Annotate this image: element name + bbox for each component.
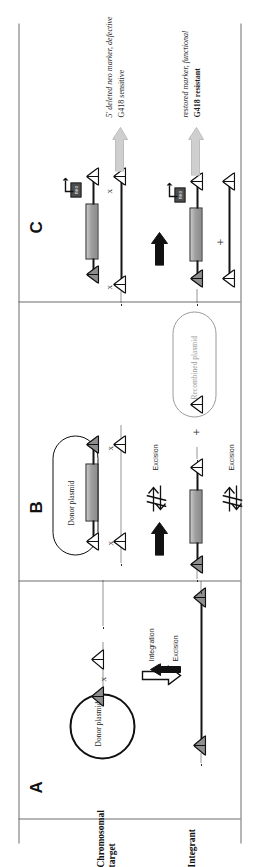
panelB-product-flank-right [196,447,197,461]
panelC-top-marker-cassette [85,203,98,259]
panelB-chromosome-att-site-left-top [113,532,126,550]
panel-letter-b: B [26,501,46,513]
frame-bottom-rule [240,23,241,843]
panelC-bottom-transcription-arrow [188,125,204,175]
panelC-top-chromosome-line [120,175,122,287]
frame-top-rule [18,23,19,843]
panelC-plus-sign: + [214,238,226,245]
panelC-crossover-right: x [104,189,113,194]
panel-divider-a-b [18,580,240,581]
panelA-plasmid-att-site-triangle [91,686,104,706]
panelB-donor-marker-cassette [85,463,98,521]
panelA-integrant-att-site-right [193,587,206,607]
row-label-integrant-line1: Integrant [186,828,196,867]
panelC-bottom-marker-cassette [189,207,202,261]
panelB-plus-sign: + [190,428,202,435]
panelC-crossover-left: x [104,285,113,290]
panelC-bottom-flank-left [196,289,197,305]
panelC-top-annotation-line1: 5' deleted neo marker, defective [104,16,114,117]
panelC-bottom-annotation-line2: G418 resistant [192,68,202,117]
panelA-chromosome-att-site-triangle [91,649,104,669]
panelC-second-product-att-left [222,269,235,287]
panelB-product-marker-cassette [189,489,202,543]
panelA-integrant-flank-left [200,753,201,765]
panelA-integrant-att-site-left [193,735,206,755]
panelB-excision-label-top: Excision [150,444,160,470]
frame-vertical-rule [18,818,240,819]
panelC-second-product-att-right [222,172,235,190]
panelB-transition-arrow [150,521,170,555]
panelA-integrant-flank-right [200,581,201,593]
panelA-chromosome-line-right [102,580,103,628]
panelB-recombined-plasmid-label: Recombined plasmid [189,335,198,399]
panelA-donor-plasmid-label: Donor plasmid [93,702,102,746]
panelA-integration-label: Integration [146,628,156,661]
panelC-top-chromosome-flank [120,291,121,305]
panelC-bottom-annotation-line1: restored marker, functional [180,30,190,117]
panelC-bottom-att-site-left [190,269,203,287]
panelC-top-transcription-arrow [112,125,128,171]
panelB-no-excision-glyph-bottom [222,483,242,513]
panelB-donor-att-site-right [86,435,99,453]
panel-letter-c: C [26,221,46,233]
panelB-product-flank-left [196,569,197,581]
panelB-chromosome-att-site-right-top [113,435,126,453]
panelC-top-promoter-arrow-icon [62,177,74,193]
panelC-transition-arrow [150,231,170,265]
panelC-second-product-line [228,183,230,279]
panelC-bottom-promoter-arrow-icon [166,182,178,198]
panelC-top-chromosome-att-left [113,275,126,293]
panelB-recombined-att-site-left [190,395,203,413]
panelC-top-att-site-left [86,265,99,283]
panelA-integration-excision-arrow [140,663,182,685]
row-label-chromosomal-target-line2: target [106,843,116,867]
panelC-top-annotation-line2: G418 sensitive [116,69,126,117]
panelA-crossover-mark: x [98,677,107,682]
row-label-integrant: Integrant [186,797,197,867]
panelC-top-att-site-right [86,167,99,185]
row-label-chromosomal-target-line1: Chromosomal [95,810,105,867]
panelB-donor-plasmid-label: Donor plasmid [66,480,75,525]
row-label-chromosomal-target: Chromosomal target [95,797,117,867]
panel-letter-a: A [26,781,46,793]
panel-divider-b-c [18,301,240,302]
panelB-no-excision-glyph-top [146,483,166,513]
panelB-donor-att-site-left [86,532,99,550]
panelB-excision-label-bottom: Excision [226,444,236,470]
panelA-integrant-line [200,600,202,745]
panelA-excision-label: Excision [170,635,180,661]
